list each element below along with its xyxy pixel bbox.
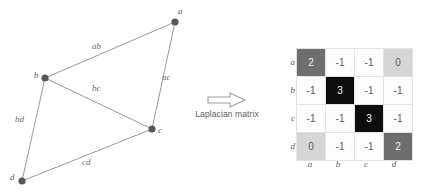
graph-edge-cd [22, 129, 152, 181]
graph-node-c [148, 125, 155, 132]
matrix-cell-ba: -1 [297, 77, 326, 105]
matrix-cell-cc: 3 [355, 105, 384, 133]
matrix-cell-aa: 2 [297, 49, 326, 77]
matrix-col-label-d: d [380, 159, 408, 169]
graph-node-label-d: d [10, 172, 15, 182]
transform-caption: Laplacian matrix [168, 109, 286, 119]
matrix-cell-ca: -1 [297, 105, 326, 133]
matrix-cell-da: 0 [297, 133, 326, 161]
matrix-col-label-b: b [324, 159, 352, 169]
matrix-row-label-d: d [287, 141, 295, 151]
matrix-body: 2-1-10-13-1-1-1-13-10-1-12 [297, 49, 413, 161]
matrix-row: 0-1-12 [297, 133, 413, 161]
matrix-row: -13-1-1 [297, 77, 413, 105]
matrix-grid: 2-1-10-13-1-1-1-13-10-1-12 [296, 48, 413, 161]
matrix-cell-dd: 2 [384, 133, 413, 161]
graph-node-d [18, 177, 25, 184]
graph-edge-label-cd: cd [82, 157, 91, 167]
matrix-col-label-a: a [296, 159, 324, 169]
matrix-row-label-a: a [287, 57, 295, 67]
graph-node-label-a: a [178, 6, 183, 16]
matrix-cell-ac: -1 [355, 49, 384, 77]
graph-edge-ab [45, 22, 175, 78]
graph-node-b [41, 74, 48, 81]
matrix-cell-cb: -1 [326, 105, 355, 133]
graph-edge-bd [22, 78, 45, 181]
matrix-cell-cd: -1 [384, 105, 413, 133]
right-arrow-outline-icon [207, 92, 247, 108]
matrix-row-label-c: c [287, 113, 295, 123]
matrix-col-label-c: c [352, 159, 380, 169]
matrix-row: -1-13-1 [297, 105, 413, 133]
graph-edge-label-bd: bd [15, 114, 24, 124]
matrix-row-label-b: b [287, 85, 295, 95]
matrix-row: 2-1-10 [297, 49, 413, 77]
matrix-cell-bc: -1 [355, 77, 384, 105]
graph-node-a [171, 18, 178, 25]
graph-edge-label-ac: ac [162, 72, 171, 82]
graph-node-label-c: c [158, 125, 162, 135]
transform-annotation: Laplacian matrix [168, 92, 286, 119]
laplacian-matrix: 2-1-10-13-1-1-1-13-10-1-12 abcd abcd [287, 46, 417, 171]
graph-edge-label-bc: bc [92, 83, 101, 93]
matrix-cell-ab: -1 [326, 49, 355, 77]
matrix-cell-bd: -1 [384, 77, 413, 105]
matrix-cell-dc: -1 [355, 133, 384, 161]
figure-graph-to-laplacian-matrix: abcdabacbcbdcd Laplacian matrix 2-1-10-1… [0, 0, 422, 196]
matrix-cell-db: -1 [326, 133, 355, 161]
graph-edge-label-ab: ab [92, 41, 101, 51]
matrix-cell-ad: 0 [384, 49, 413, 77]
graph-node-label-b: b [34, 70, 39, 80]
matrix-cell-bb: 3 [326, 77, 355, 105]
